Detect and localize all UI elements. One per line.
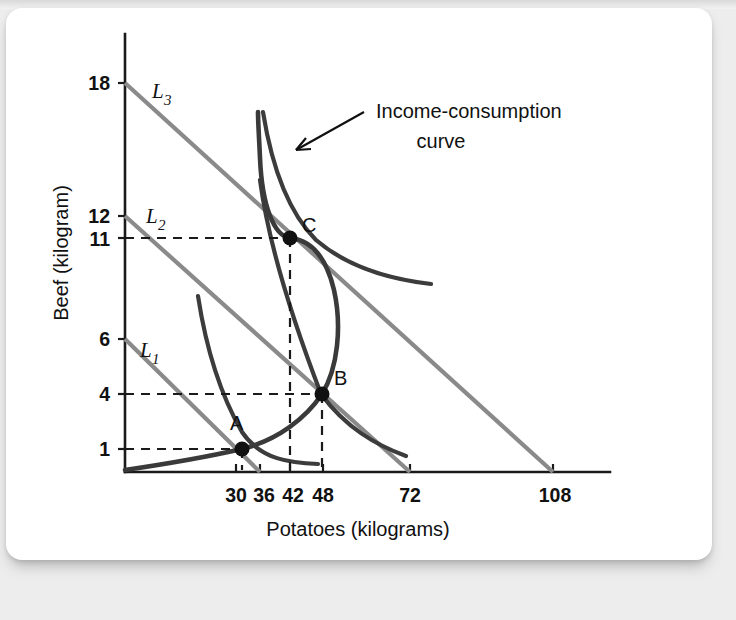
point-B-marker [315, 387, 330, 402]
y-axis-title: Beef (kilogram) [50, 185, 72, 321]
budget-line-L2 [125, 216, 410, 472]
point-C-marker [283, 231, 298, 246]
svg-text:2: 2 [158, 217, 166, 233]
svg-text:L: L [145, 204, 158, 228]
x-axis-title: Potatoes (kilograms) [266, 518, 449, 540]
x-tick-label-30: 30 [225, 484, 247, 506]
x-tick-label-48: 48 [312, 484, 334, 506]
annotation-line-1: Income-consumption [376, 100, 562, 122]
point-A-marker [235, 442, 250, 457]
svg-text:L: L [139, 338, 152, 362]
svg-text:L: L [151, 79, 164, 103]
y-tick-label-18: 18 [88, 72, 110, 94]
y-tick-label-11: 11 [89, 228, 110, 250]
y-tick-label-12: 12 [88, 205, 110, 227]
svg-text:1: 1 [152, 351, 160, 367]
point-A-label: A [230, 412, 244, 434]
callout-arrow-icon [296, 112, 364, 150]
x-tick-label-36: 36 [253, 484, 275, 506]
y-tick-label-6: 6 [99, 328, 110, 350]
x-tick-label-72: 72 [399, 484, 421, 506]
indifference-curve-3 [263, 112, 431, 284]
annotation-line-2: curve [417, 130, 466, 152]
svg-text:3: 3 [163, 92, 172, 108]
x-tick-label-42: 42 [282, 484, 304, 506]
budget-line-L2-label: L 2 [145, 204, 166, 233]
figure-card: A B C 18 12 11 6 4 1 30 36 42 48 72 108 … [6, 8, 712, 560]
economics-figure: A B C 18 12 11 6 4 1 30 36 42 48 72 108 … [6, 8, 712, 560]
page-root: A B C 18 12 11 6 4 1 30 36 42 48 72 108 … [0, 0, 736, 620]
point-C-label: C [302, 214, 316, 236]
indifference-curve-1 [198, 296, 318, 464]
y-tick-label-4: 4 [99, 383, 110, 405]
x-tick-label-108: 108 [539, 484, 572, 506]
point-B-label: B [334, 367, 347, 389]
y-tick-label-1: 1 [99, 438, 110, 460]
budget-line-L3-label: L 3 [151, 79, 172, 108]
